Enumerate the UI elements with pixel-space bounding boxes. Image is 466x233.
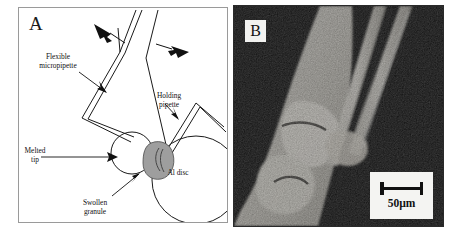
- scale-bar-ibeam: [378, 182, 425, 195]
- label-al-disc: Al disc: [156, 168, 200, 177]
- label-holding-pipette: Holding pipette: [142, 91, 196, 109]
- arrow-shaft-right: [156, 44, 172, 49]
- scale-bar-cap-right: [420, 182, 424, 195]
- figure-container: A: [0, 0, 466, 233]
- arrowhead-left: [94, 24, 112, 43]
- scale-bar-label: 50µm: [388, 198, 416, 210]
- holding-pipette-inner: [172, 107, 226, 153]
- holding-pipette-shaft-outer: [146, 10, 167, 149]
- leader-swollen-head: [131, 173, 140, 183]
- panel-a-schematic: [19, 8, 227, 222]
- arrow-shaft-left: [110, 33, 125, 43]
- panel-b: B 50µm: [233, 5, 444, 227]
- label-melted-tip: Melted tip: [7, 146, 63, 164]
- panel-a: A: [18, 7, 228, 223]
- arrowhead-right: [168, 46, 189, 58]
- holding-pipette-outer: [167, 103, 224, 150]
- scale-bar: 50µm: [370, 172, 433, 219]
- panel-b-letter-box: B: [245, 20, 266, 42]
- scale-bar-line: [381, 187, 422, 190]
- label-swollen-granule: Swollen granule: [67, 198, 123, 216]
- panel-b-letter: B: [250, 23, 261, 39]
- label-flexible-micropipette: Flexible micropipette: [25, 52, 91, 70]
- flexible-pipette-outer: [82, 10, 136, 142]
